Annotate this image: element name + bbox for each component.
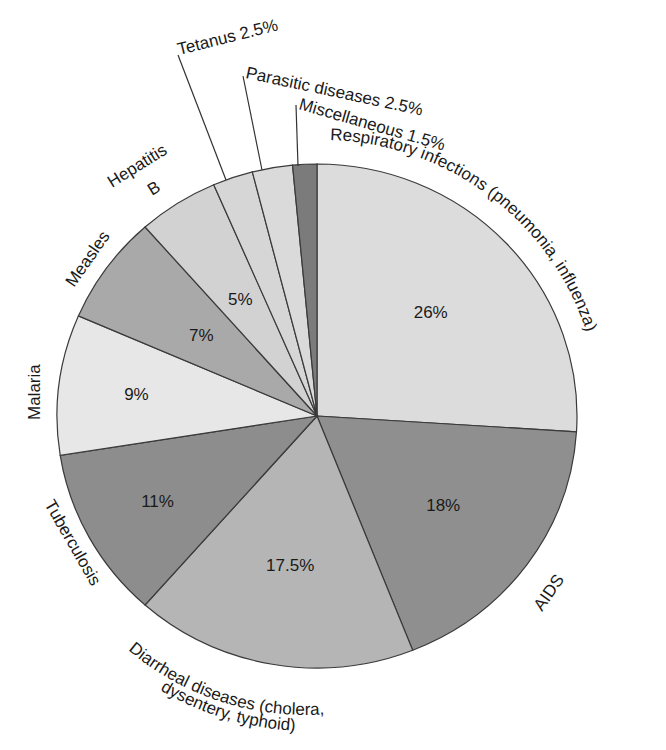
label-tetanus: Tetanus 2.5% — [175, 16, 280, 59]
percent-label: 11% — [141, 492, 174, 511]
percent-label: 9% — [124, 385, 149, 404]
percent-label: 17.5% — [266, 556, 314, 575]
percent-label: 7% — [189, 326, 214, 345]
leader-line-miscellaneous — [296, 105, 298, 166]
label-malaria: Malaria — [25, 364, 44, 420]
percent-label: 18% — [426, 496, 460, 515]
percent-label: 26% — [414, 303, 448, 322]
leader-line-parasitic — [243, 76, 262, 170]
pie-chart: 26%18%17.5%11%9%7%5% Respiratory infecti… — [0, 0, 666, 750]
percent-label: 5% — [228, 290, 253, 309]
pie-slice-respiratory — [317, 164, 577, 432]
pie-slices — [57, 164, 577, 668]
label-aids: AIDS — [530, 571, 568, 614]
label-hepatitis-line1: Hepatitis — [104, 140, 170, 191]
leader-line-tetanus — [178, 55, 226, 180]
label-hepatitis-line2: B — [144, 177, 164, 199]
